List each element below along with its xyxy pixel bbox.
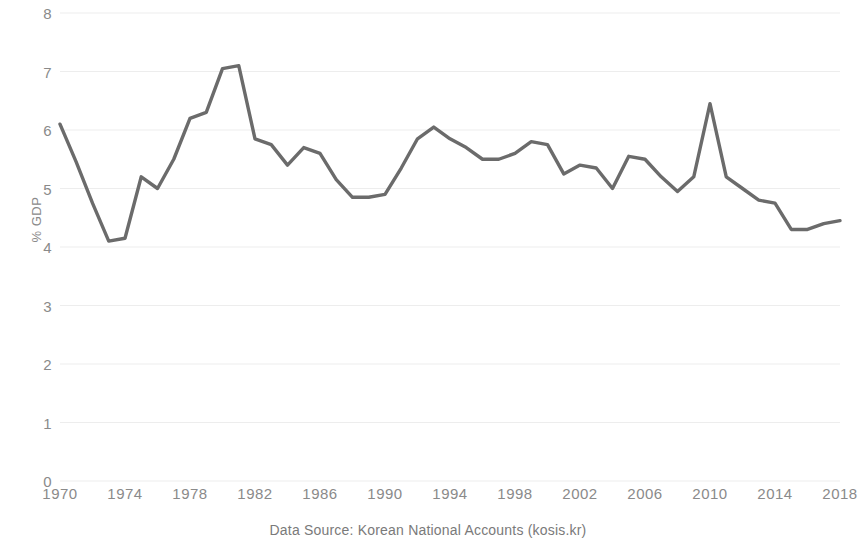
y-axis-tick-labels: 012345678 — [0, 0, 52, 549]
x-tick-label-1986: 1986 — [290, 485, 350, 502]
y-tick-label-2: 2 — [26, 356, 52, 373]
data-series-group — [60, 66, 840, 242]
x-tick-label-2018: 2018 — [810, 485, 862, 502]
x-tick-label-1990: 1990 — [355, 485, 415, 502]
x-tick-label-1978: 1978 — [160, 485, 220, 502]
x-tick-label-2006: 2006 — [615, 485, 675, 502]
y-tick-label-6: 6 — [26, 122, 52, 139]
x-tick-label-2014: 2014 — [745, 485, 805, 502]
y-tick-label-3: 3 — [26, 297, 52, 314]
x-tick-label-2002: 2002 — [550, 485, 610, 502]
source-caption: Data Source: Korean National Accounts (k… — [0, 522, 856, 538]
gridlines-group — [60, 13, 840, 481]
x-tick-label-1982: 1982 — [225, 485, 285, 502]
x-tick-label-1998: 1998 — [485, 485, 545, 502]
y-axis-title: % GDP — [29, 180, 44, 260]
x-tick-label-1974: 1974 — [95, 485, 155, 502]
x-tick-label-1994: 1994 — [420, 485, 480, 502]
data-line-government-consumption — [60, 66, 840, 242]
y-tick-label-8: 8 — [26, 5, 52, 22]
x-tick-label-2010: 2010 — [680, 485, 740, 502]
y-tick-label-1: 1 — [26, 414, 52, 431]
x-tick-label-1970: 1970 — [30, 485, 90, 502]
y-tick-label-7: 7 — [26, 63, 52, 80]
